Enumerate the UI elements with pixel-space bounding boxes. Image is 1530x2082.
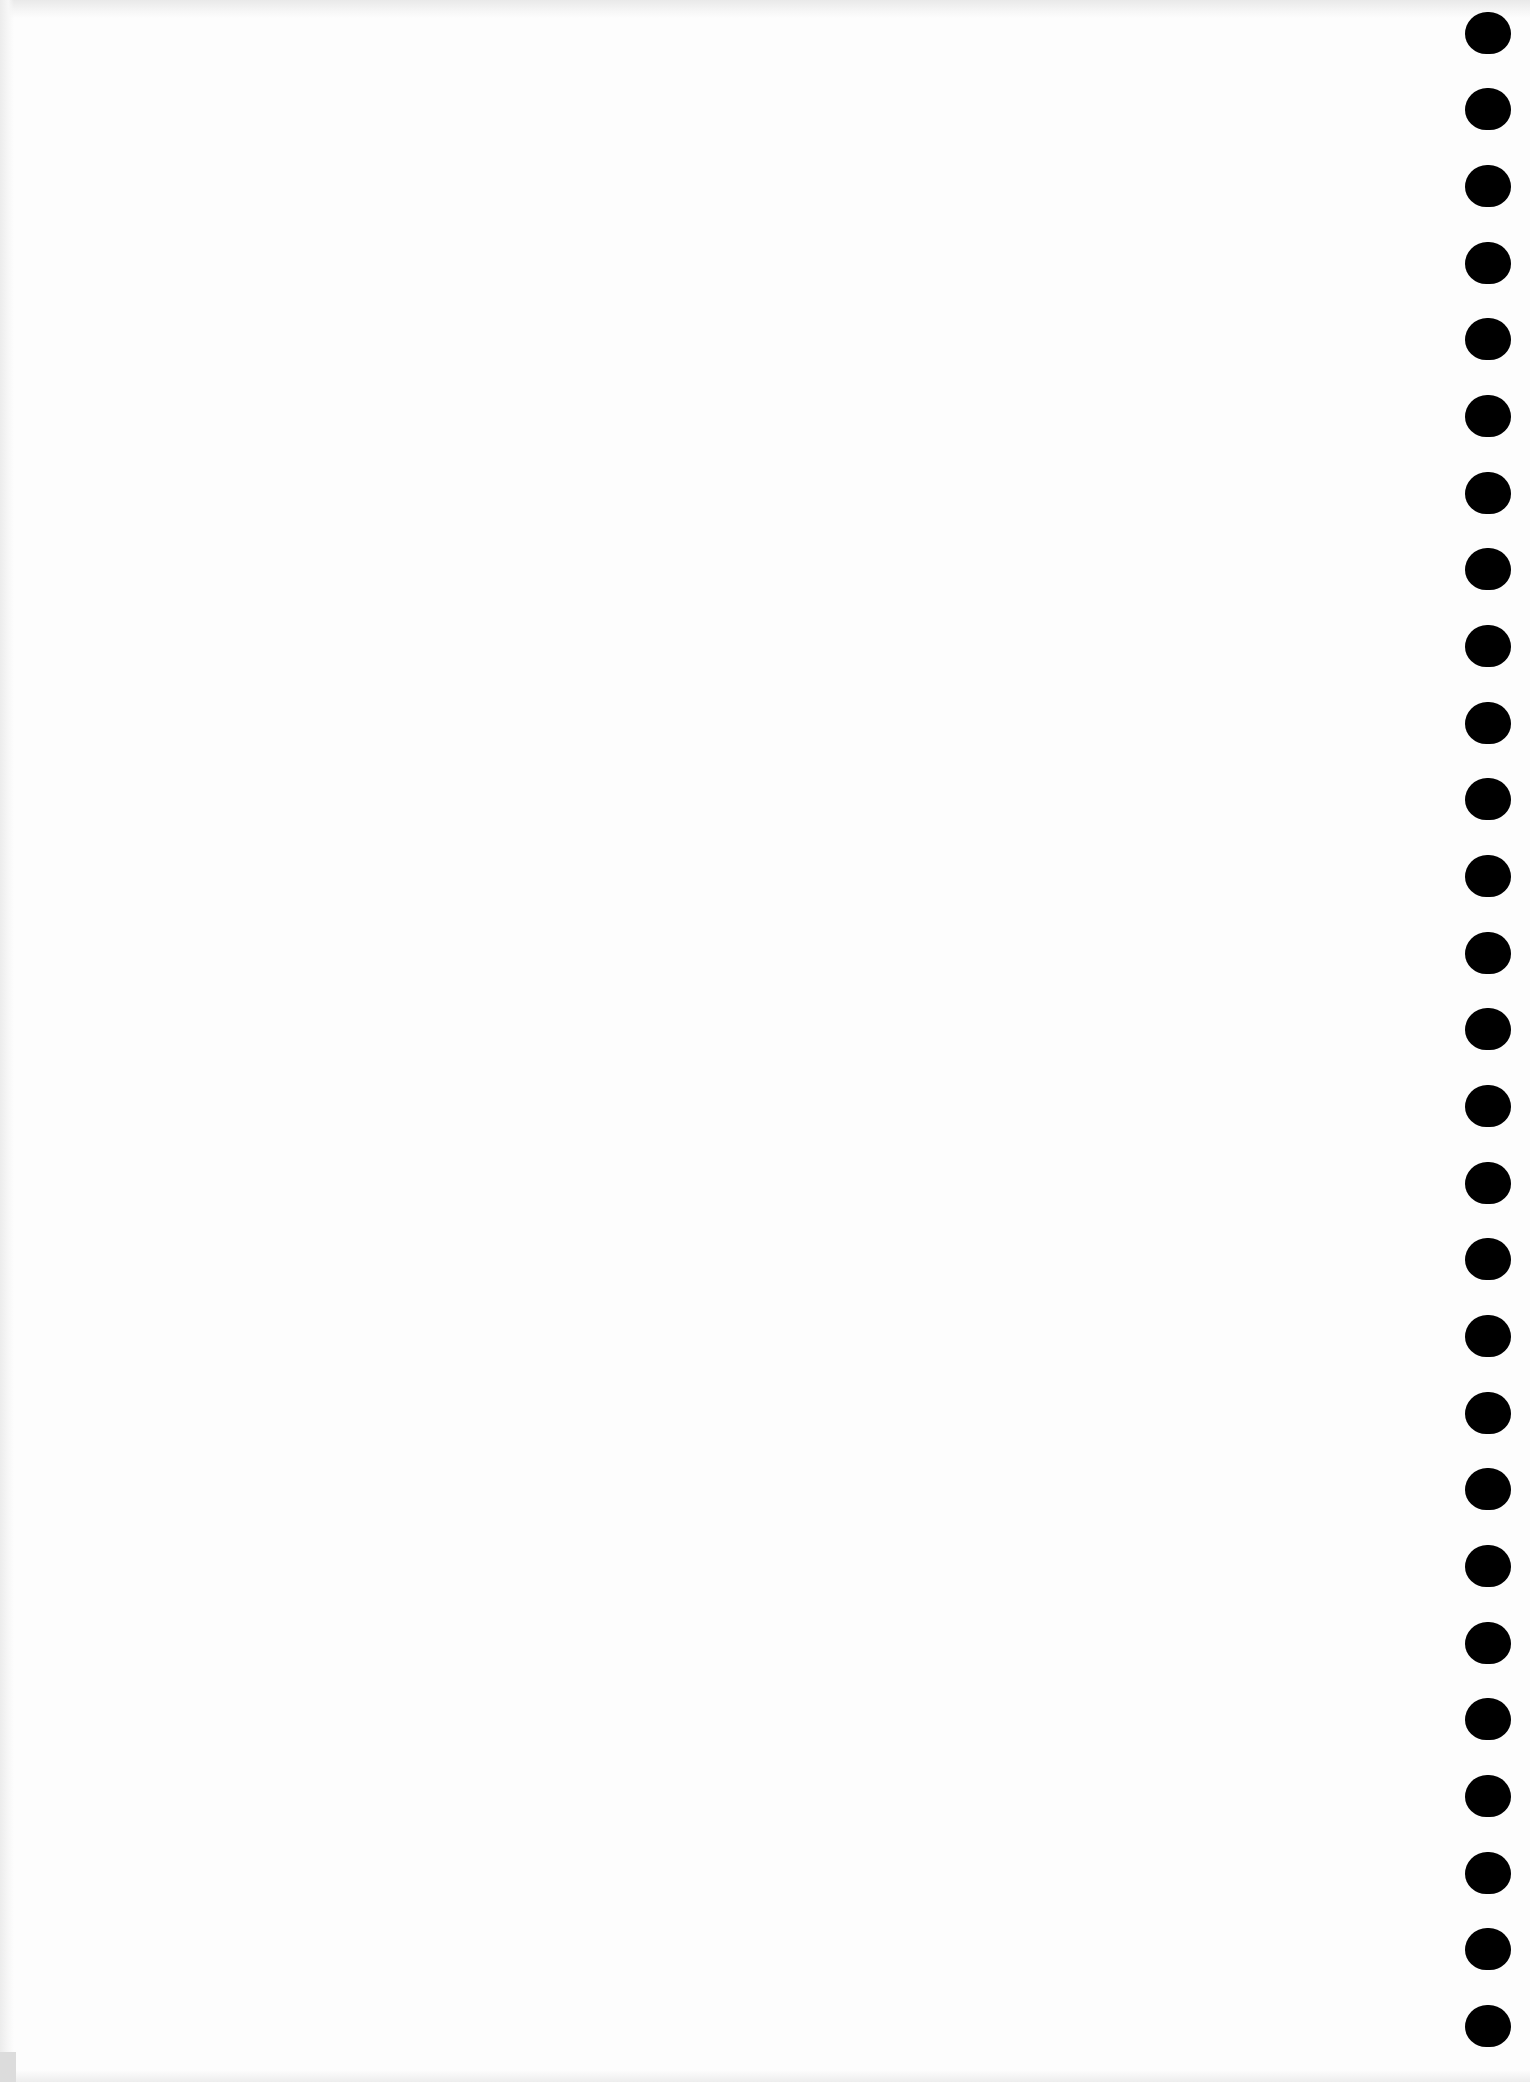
binding-hole-icon [1465,1928,1511,1970]
page-top-edge-shadow [0,0,1530,18]
binding-hole-icon [1465,1468,1511,1510]
binding-hole-icon [1465,12,1511,54]
binding-hole-icon [1465,778,1511,820]
binding-hole-icon [1465,395,1511,437]
binding-hole-icon [1465,1852,1511,1894]
page-corner-shadow [0,2052,16,2082]
binding-hole-icon [1465,1622,1511,1664]
binding-hole-icon [1465,1085,1511,1127]
binding-hole-icon [1465,625,1511,667]
binding-hole-icon [1465,1775,1511,1817]
blank-page [0,0,1530,2082]
binding-hole-icon [1465,855,1511,897]
binding-hole-icon [1465,932,1511,974]
binding-hole-icon [1465,2005,1511,2047]
binding-hole-icon [1465,548,1511,590]
binding-hole-icon [1465,1545,1511,1587]
binding-hole-icon [1465,1238,1511,1280]
binding-hole-icon [1465,165,1511,207]
binding-hole-icon [1465,1315,1511,1357]
binding-hole-icon [1465,88,1511,130]
binding-hole-icon [1465,1698,1511,1740]
binding-hole-icon [1465,1162,1511,1204]
binding-hole-icon [1465,242,1511,284]
page-left-edge-shadow [0,0,14,2082]
binding-hole-icon [1465,1392,1511,1434]
page-bottom-edge-shadow [0,2070,1530,2082]
binding-hole-icon [1465,702,1511,744]
binding-hole-icon [1465,318,1511,360]
binding-hole-icon [1465,472,1511,514]
binding-hole-icon [1465,1008,1511,1050]
binding-holes-column [1465,0,1513,2082]
